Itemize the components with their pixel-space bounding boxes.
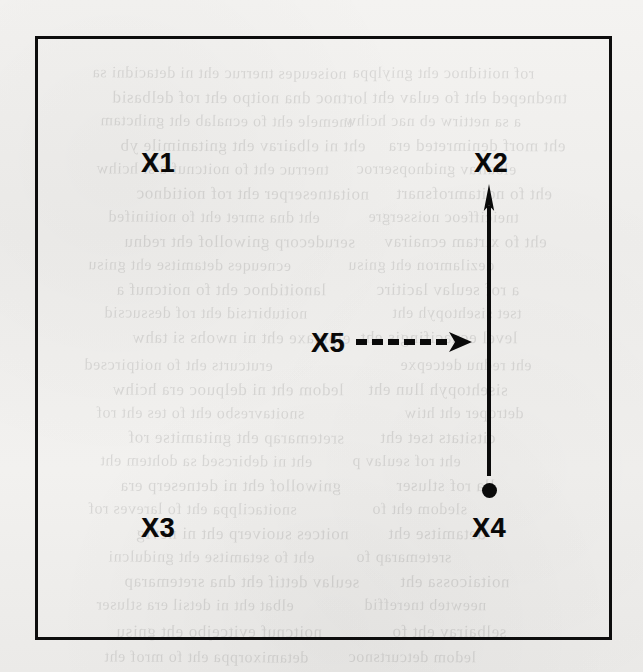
node-label-x4: X4 [472, 515, 506, 542]
solid-arrow-shaft [487, 206, 491, 476]
node-label-x2: X2 [474, 150, 508, 177]
bleed-through-line: detamixorppa eht fo mrof eht [104, 647, 308, 666]
bleed-through-line: ledom detcurtsnoc [348, 648, 476, 667]
node-label-x3: X3 [141, 515, 175, 542]
node-label-x1: X1 [141, 150, 175, 177]
figure-border-box: X1 X2 X3 X4 X5 [35, 36, 612, 640]
scanned-figure-page: noiseuqes tnerruc eht ni detacidni salor… [0, 0, 643, 672]
solid-arrow-head-icon [479, 184, 499, 212]
node-label-x5: X5 [311, 330, 345, 357]
x4-source-dot [482, 483, 497, 498]
dashed-arrow-icon [356, 329, 478, 355]
